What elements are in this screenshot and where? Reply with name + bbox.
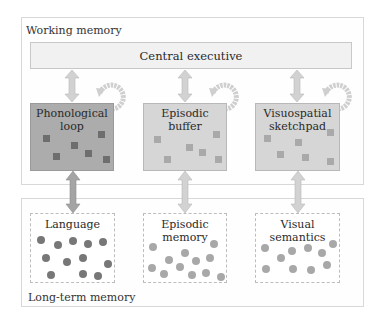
- item-square: [103, 156, 110, 163]
- memory-dot: [148, 264, 156, 272]
- memory-dot: [63, 258, 71, 266]
- item-square: [85, 150, 92, 157]
- memory-dot: [94, 272, 102, 280]
- memory-dot: [181, 249, 189, 257]
- item-square: [213, 131, 220, 138]
- memory-dot: [210, 240, 218, 248]
- memory-dot: [188, 271, 196, 279]
- store-title: Visual: [256, 218, 339, 231]
- item-square: [264, 135, 271, 142]
- phonological-loop-box: Phonological loop: [30, 103, 114, 171]
- item-square: [215, 156, 222, 163]
- double-arrow-icon: [289, 70, 305, 102]
- double-arrow-icon: [177, 70, 193, 102]
- memory-dot: [37, 236, 45, 244]
- store-title: Language: [31, 218, 114, 231]
- visual-semantics-store: Visual semantics: [255, 213, 340, 283]
- memory-dot: [318, 249, 326, 257]
- memory-dot: [69, 237, 77, 245]
- memory-dot: [217, 273, 225, 281]
- double-arrow-icon: [177, 171, 193, 213]
- store-subtitle: semantics: [256, 231, 339, 244]
- memory-dot: [307, 266, 315, 274]
- item-square: [43, 135, 50, 142]
- memory-dot: [165, 256, 173, 264]
- item-square: [186, 144, 193, 151]
- working-memory-label: Working memory: [26, 24, 122, 37]
- double-arrow-icon: [290, 171, 306, 213]
- language-store: Language: [30, 213, 115, 283]
- item-square: [199, 149, 206, 156]
- memory-dot: [262, 265, 270, 273]
- memory-dot: [160, 270, 168, 278]
- memory-dot: [42, 254, 50, 262]
- memory-dot: [323, 261, 331, 269]
- memory-dot: [79, 270, 87, 278]
- item-square: [295, 139, 302, 146]
- item-square: [327, 129, 334, 136]
- item-square: [302, 154, 309, 161]
- store-title: Episodic: [144, 218, 226, 231]
- memory-dot: [79, 254, 87, 262]
- memory-dot: [288, 247, 296, 255]
- visuospatial-sketchpad-box: Visuospatial sketchpad: [255, 103, 340, 171]
- memory-dot: [104, 260, 112, 268]
- central-executive-box: Central executive: [30, 42, 352, 69]
- memory-dot: [329, 240, 337, 248]
- episodic-buffer-box: Episodic buffer: [143, 103, 227, 171]
- episodic-memory-store: Episodic memory: [143, 213, 227, 283]
- component-title: Phonological: [31, 107, 113, 120]
- item-square: [154, 136, 161, 143]
- memory-dot: [202, 269, 210, 277]
- component-title: Episodic: [144, 107, 226, 120]
- memory-dot: [289, 265, 297, 273]
- central-executive-label: Central executive: [140, 49, 243, 63]
- memory-dot: [261, 244, 269, 252]
- item-square: [277, 151, 284, 158]
- memory-dot: [99, 238, 107, 246]
- double-arrow-icon: [65, 171, 81, 213]
- memory-dot: [149, 243, 157, 251]
- item-square: [71, 142, 78, 149]
- memory-dot: [277, 254, 285, 262]
- component-title: Visuospatial: [256, 107, 339, 120]
- memory-dot: [304, 244, 312, 252]
- double-arrow-icon: [64, 70, 80, 102]
- memory-dot: [47, 271, 55, 279]
- memory-dot: [176, 263, 184, 271]
- memory-dot: [206, 254, 214, 262]
- item-square: [164, 156, 171, 163]
- memory-dot: [84, 240, 92, 248]
- item-square: [98, 131, 105, 138]
- long-term-memory-label: Long-term memory: [28, 291, 135, 304]
- item-square: [53, 153, 60, 160]
- memory-dot: [192, 257, 200, 265]
- item-square: [327, 158, 334, 165]
- memory-dot: [54, 241, 62, 249]
